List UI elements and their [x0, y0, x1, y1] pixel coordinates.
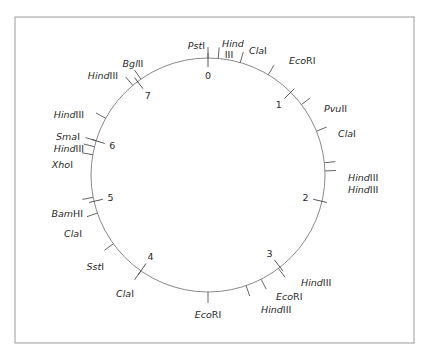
restriction-map-figure: 01234567 PstIHindIIIClaIEcoRIPvuIIClaIHi… — [0, 0, 430, 359]
enzyme-label-hindiii: HindIII — [348, 184, 378, 195]
map-unit-label: 5 — [108, 192, 114, 203]
enzyme-label-hindiii: HindIII — [348, 172, 378, 183]
site-tick — [82, 197, 93, 199]
enzyme-label-hindiii: Hind — [222, 38, 245, 49]
site-tick — [126, 77, 133, 85]
map-unit-label: 7 — [145, 90, 151, 101]
map-unit-label: 3 — [267, 248, 273, 259]
enzyme-label-ecori: EcoRI — [276, 291, 302, 302]
site-tick — [316, 127, 326, 131]
enzyme-label-smai: SmaI — [56, 131, 80, 142]
map-unit-markers: 01234567 — [89, 53, 327, 275]
enzyme-label-bglii: BglII — [123, 58, 144, 69]
enzyme-label-xhoi: XhoI — [51, 159, 73, 170]
site-tick — [135, 271, 141, 280]
site-tick — [87, 213, 97, 217]
enzyme-label-clai: ClaI — [338, 128, 356, 139]
map-unit-label: 6 — [109, 140, 115, 151]
site-tick — [86, 138, 97, 141]
enzyme-label-clai: ClaI — [64, 228, 82, 239]
enzyme-label-hindiii: HindIII — [54, 109, 84, 120]
enzyme-label-hindiii: HindIII — [301, 277, 331, 288]
site-tick — [240, 52, 243, 63]
site-tick — [218, 47, 219, 58]
site-tick — [324, 162, 335, 163]
map-unit-label: 0 — [205, 70, 211, 81]
site-tick — [96, 113, 106, 118]
enzyme-label-pvuii: PvuII — [324, 103, 347, 114]
map-unit-tick — [89, 199, 103, 202]
site-tick — [84, 144, 95, 147]
enzyme-label-ecori: EcoRI — [289, 55, 315, 66]
map-unit-label: 4 — [148, 251, 154, 262]
enzyme-label-ecori: EcoRI — [195, 309, 221, 320]
enzyme-label-hindiii: HindIII — [261, 304, 291, 315]
enzyme-label-continuation: III — [225, 49, 233, 60]
site-tick — [261, 279, 266, 289]
site-tick — [246, 286, 250, 296]
enzyme-label-hindiii: HindIII — [88, 70, 118, 81]
restriction-sites: PstIHindIIIClaIEcoRIPvuIIClaIHindIIIHind… — [51, 38, 378, 320]
site-tick — [301, 98, 310, 105]
enzyme-label-ssti: SstI — [86, 261, 104, 272]
enzyme-label-bamhi: BamHI — [51, 208, 83, 219]
site-tick — [104, 244, 113, 250]
enzyme-label-hindiii: HindIII — [54, 143, 84, 154]
map-unit-label: 1 — [276, 99, 282, 110]
enzyme-label-clai: ClaI — [116, 288, 134, 299]
site-tick — [268, 65, 274, 74]
map-unit-tick — [313, 199, 327, 202]
enzyme-label-psti: PstI — [188, 40, 205, 51]
enzyme-label-clai: ClaI — [249, 45, 267, 56]
map-unit-label: 2 — [302, 192, 308, 203]
site-tick — [135, 70, 141, 79]
